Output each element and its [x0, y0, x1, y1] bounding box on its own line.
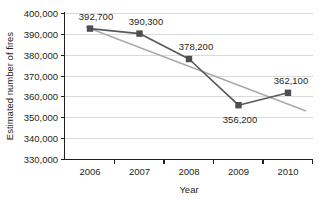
y-tick-label-370000: 370,000 — [24, 71, 58, 82]
data-label-2008: 378,200 — [179, 41, 213, 52]
data-point-2007 — [136, 30, 142, 36]
y-tick-label-330000: 330,000 — [24, 154, 58, 165]
y-tick-label-340000: 340,000 — [24, 133, 58, 144]
y-axis-title: Estimated number of fires — [4, 32, 15, 140]
y-tick-label-380000: 380,000 — [24, 50, 58, 61]
y-tick-label-350000: 350,000 — [24, 112, 58, 123]
data-point-2010 — [285, 90, 291, 96]
x-tick-label-2010: 2010 — [277, 166, 298, 177]
data-label-2009: 356,200 — [223, 114, 257, 125]
y-axis-tick-labels: 400,000 390,000 380,000 370,000 360,000 … — [24, 8, 58, 165]
y-tick-label-400000: 400,000 — [24, 8, 58, 19]
data-label-2010: 362,100 — [274, 75, 308, 86]
data-label-2007: 390,300 — [129, 16, 163, 27]
data-point-2008 — [186, 56, 192, 62]
trend-line — [86, 27, 306, 111]
x-tick-label-2008: 2008 — [178, 166, 199, 177]
y-tick-label-390000: 390,000 — [24, 29, 58, 40]
y-tick-label-360000: 360,000 — [24, 91, 58, 102]
data-label-2006: 392,700 — [79, 11, 113, 22]
chart-canvas: 400,000 390,000 380,000 370,000 360,000 … — [0, 0, 323, 200]
data-point-2006 — [87, 25, 93, 31]
x-tick-label-2009: 2009 — [228, 166, 249, 177]
data-point-2009 — [235, 102, 241, 108]
x-tick-label-2006: 2006 — [79, 166, 100, 177]
line-chart: 400,000 390,000 380,000 370,000 360,000 … — [0, 0, 323, 200]
x-tick-label-2007: 2007 — [129, 166, 150, 177]
x-axis-title: Year — [179, 184, 198, 195]
x-axis-tick-labels: 2006 2007 2008 2009 2010 — [79, 166, 298, 177]
